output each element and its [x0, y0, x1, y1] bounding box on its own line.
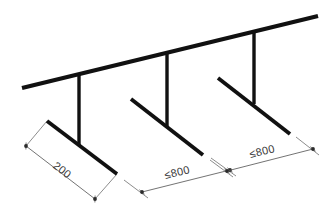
- dim-base-left-endpoint-dot-0: [24, 144, 28, 148]
- technical-drawing-canvas: 200≤800≤800: [0, 0, 331, 221]
- dim-base-left-endpoint-dot-1: [93, 197, 97, 201]
- dim-span-right-endpoint-dot-1: [311, 147, 315, 151]
- dim-span-middle-endpoint-dot-0: [140, 190, 144, 194]
- dim-span-right-endpoint-dot-0: [225, 169, 229, 173]
- drawing-svg: 200≤800≤800: [0, 0, 331, 221]
